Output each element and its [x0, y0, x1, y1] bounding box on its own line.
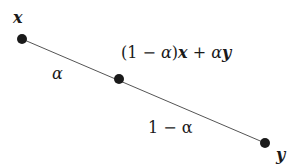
label-alpha: α	[52, 64, 63, 83]
point-mid	[114, 74, 124, 84]
label-mid-open: (1 −	[121, 43, 161, 62]
label-one-minus-alpha: 1 − α	[148, 118, 193, 137]
point-y	[260, 138, 270, 148]
label-y: y	[275, 145, 287, 164]
label-mid-x: x	[177, 43, 188, 62]
label-mid-alpha2: α	[211, 43, 222, 62]
label-mid-alpha1: α	[161, 43, 172, 62]
label-mid-plus: +	[188, 43, 212, 62]
label-mid: (1 − α)x + αy	[121, 43, 233, 62]
label-mid-y: y	[221, 43, 233, 62]
label-x: x	[12, 8, 23, 27]
point-x	[17, 34, 27, 44]
convex-combination-diagram: x (1 − α)x + αy α 1 − α y	[0, 0, 301, 166]
